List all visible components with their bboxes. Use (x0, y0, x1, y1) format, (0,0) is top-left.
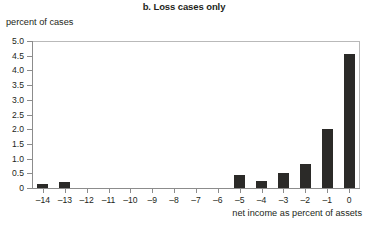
bar (322, 129, 333, 188)
x-axis-tick-label-wrap: 0 (334, 195, 364, 207)
x-axis-tick (196, 189, 197, 193)
y-axis-tick-label: 5.0 (0, 36, 24, 46)
bar (234, 175, 245, 188)
x-axis-tick (87, 189, 88, 193)
y-axis-tick-label: 3.5 (0, 80, 24, 90)
x-axis-tick (130, 189, 131, 193)
y-axis-tick-label: 4.5 (0, 51, 24, 61)
y-axis-tick-label: 4.0 (0, 65, 24, 75)
x-axis-tick (218, 189, 219, 193)
y-axis-tick-label: 0 (0, 183, 24, 193)
x-axis-label: net income as percent of assets (232, 208, 362, 218)
x-axis-tick-label: 0 (334, 195, 364, 205)
x-axis-tick (65, 189, 66, 193)
bar (300, 164, 311, 188)
x-axis-tick (327, 189, 328, 193)
y-axis-tick-label: 0.5 (0, 168, 24, 178)
y-axis-tick-label: 2.5 (0, 110, 24, 120)
y-axis-tick-label: 1.5 (0, 139, 24, 149)
bar (344, 54, 355, 188)
y-axis-tick-label: 1.0 (0, 154, 24, 164)
bar (256, 181, 267, 188)
x-axis-tick (305, 189, 306, 193)
chart-title: b. Loss cases only (0, 1, 368, 12)
chart-container: b. Loss cases only percent of cases 5.04… (0, 0, 368, 228)
x-axis-tick (262, 189, 263, 193)
x-axis-tick (174, 189, 175, 193)
y-axis-tick-label: 2.0 (0, 124, 24, 134)
bar (59, 182, 70, 188)
y-axis-tick-label: 3.0 (0, 95, 24, 105)
bar (278, 173, 289, 188)
x-axis-tick (283, 189, 284, 193)
x-axis-tick (349, 189, 350, 193)
bar (37, 184, 48, 188)
bars-layer (32, 41, 360, 188)
y-axis-tick (27, 188, 32, 189)
x-axis-tick (152, 189, 153, 193)
x-axis-tick (109, 189, 110, 193)
x-axis-tick (240, 189, 241, 193)
x-axis-tick (43, 189, 44, 193)
y-axis-label: percent of cases (6, 17, 73, 27)
